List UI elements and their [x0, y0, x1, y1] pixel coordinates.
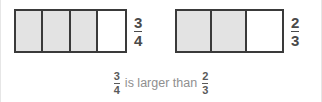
caption-fraction-right: 2 3 — [202, 71, 208, 96]
fraction-label-left: 3 4 — [134, 15, 142, 48]
fraction-cell — [177, 11, 212, 51]
fraction-cell — [16, 11, 43, 51]
caption-fraction-left: 3 4 — [114, 71, 120, 96]
fraction-label-right: 2 3 — [291, 15, 299, 48]
fraction-cell — [247, 11, 282, 51]
fraction-denominator: 3 — [202, 83, 208, 96]
fraction-numerator: 3 — [114, 71, 120, 82]
fraction-denominator: 4 — [114, 83, 120, 96]
fraction-numerator: 3 — [134, 15, 142, 30]
caption-phrase: is larger than — [125, 76, 197, 90]
fraction-cell — [212, 11, 247, 51]
fraction-model-left: 3 4 — [14, 9, 142, 53]
fraction-cell — [71, 11, 98, 51]
fraction-comparison-diagram: 3 4 2 3 3 4 is larger than 2 3 — [0, 0, 322, 102]
fraction-bar-left — [14, 9, 127, 53]
fraction-cell — [98, 11, 125, 51]
fraction-denominator: 4 — [134, 31, 142, 48]
fraction-denominator: 3 — [291, 31, 299, 48]
comparison-caption: 3 4 is larger than 2 3 — [0, 68, 322, 98]
fraction-model-right: 2 3 — [175, 9, 299, 53]
fraction-numerator: 2 — [202, 71, 208, 82]
fraction-bar-right — [175, 9, 284, 53]
fraction-cell — [43, 11, 70, 51]
fraction-numerator: 2 — [291, 15, 299, 30]
